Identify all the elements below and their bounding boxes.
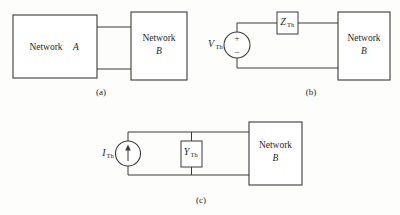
panel-b: + – V Th Z Th Network B (b) — [208, 12, 390, 97]
ith-subscript: Th — [107, 152, 115, 159]
zth-subscript: Th — [287, 21, 295, 28]
caption-b: (b) — [306, 87, 317, 97]
zth-symbol: Z — [280, 16, 286, 27]
network-b-label-b: Network — [347, 33, 380, 43]
network-b-letter-a: B — [156, 46, 162, 56]
caption-c: (c) — [196, 195, 206, 205]
network-b-letter-b: B — [361, 46, 367, 56]
polarity-minus-sign: – — [234, 46, 240, 56]
caption-a: (a) — [96, 87, 106, 97]
polarity-plus-sign: + — [234, 33, 239, 43]
network-a-letter: A — [72, 42, 79, 52]
yth-subscript: Th — [191, 151, 199, 158]
circuit-diagram-svg: Network A Network B (a) + — [0, 0, 400, 215]
network-b-label-a: Network — [142, 33, 175, 43]
panel-a: Network A Network B (a) — [13, 12, 187, 97]
vth-subscript: Th — [216, 43, 224, 50]
network-b-label-c: Network — [259, 140, 292, 150]
panel-c: I Th Y Th Network B (c) — [101, 122, 302, 205]
network-a-label: Network — [29, 42, 62, 52]
circuit-figure: Network A Network B (a) + — [0, 0, 400, 215]
network-b-letter-c: B — [273, 153, 279, 163]
